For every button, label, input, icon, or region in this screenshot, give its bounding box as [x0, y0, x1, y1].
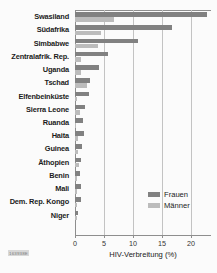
- legend-item-maenner: Männer: [148, 201, 190, 210]
- bar-maenner: [75, 163, 79, 168]
- gridline-20: [191, 10, 192, 235]
- category-label-mali: Mali: [55, 182, 69, 195]
- category-label-simbabwe: Simbabwe: [34, 36, 69, 49]
- hiv-prevalence-bar-chart: SwasilandSüdafrikaSimbabweZentralafrik. …: [0, 0, 217, 273]
- bar-maenner: [75, 176, 77, 181]
- x-tick-mark-5: [104, 235, 105, 238]
- legend-item-frauen: Frauen: [148, 190, 190, 199]
- bar-row: [75, 89, 191, 102]
- x-tick-label-20: 20: [187, 239, 195, 248]
- bar-row: [75, 156, 191, 169]
- category-label-niger: Niger: [51, 209, 69, 222]
- bar-frauen: [75, 144, 82, 149]
- bar-maenner: [75, 57, 81, 62]
- bar-frauen: [75, 158, 81, 163]
- bar-row: [75, 103, 191, 116]
- bar-frauen: [75, 12, 207, 17]
- bar-maenner: [75, 31, 101, 36]
- bar-row: [75, 169, 191, 182]
- bar-maenner: [75, 97, 77, 102]
- category-label-thopien: Äthopien: [38, 156, 69, 169]
- bar-frauen: [75, 131, 84, 136]
- bar-maenner: [75, 189, 77, 194]
- x-tick-label-0: 0: [73, 239, 77, 248]
- bar-maenner: [75, 136, 78, 141]
- bar-frauen: [75, 197, 81, 202]
- bar-frauen: [75, 184, 81, 189]
- category-label-benin: Benin: [49, 169, 69, 182]
- x-tick-mark-10: [133, 235, 134, 238]
- bar-frauen: [75, 118, 83, 123]
- bar-frauen: [75, 211, 78, 216]
- category-label-swasiland: Swasiland: [34, 10, 69, 23]
- bar-maenner: [75, 17, 114, 22]
- category-label-elfenbeink-ste: Elfenbeinküste: [19, 89, 69, 102]
- x-tick-mark-20: [191, 235, 192, 238]
- category-label-zentralafrik-rep: Zentralafrik. Rep.: [11, 50, 69, 63]
- x-tick-mark-15: [162, 235, 163, 238]
- chart-legend: Frauen Männer: [148, 190, 190, 212]
- bar-maenner: [75, 150, 78, 155]
- bar-maenner: [75, 216, 77, 221]
- bar-row: [75, 76, 191, 89]
- bar-row: [75, 50, 191, 63]
- x-tick-label-10: 10: [129, 239, 137, 248]
- category-label-guinea: Guinea: [45, 142, 69, 155]
- category-label-tschad: Tschad: [45, 76, 69, 89]
- bar-row: [75, 129, 191, 142]
- bar-frauen: [75, 78, 90, 83]
- bar-frauen: [75, 65, 99, 70]
- bar-row: [75, 36, 191, 49]
- bar-frauen: [75, 52, 108, 57]
- bar-maenner: [75, 110, 80, 115]
- x-tick-label-15: 15: [158, 239, 166, 248]
- bar-frauen: [75, 39, 138, 44]
- category-axis-labels: SwasilandSüdafrikaSimbabweZentralafrik. …: [0, 10, 72, 235]
- bar-frauen: [75, 25, 172, 30]
- bar-row: [75, 116, 191, 129]
- category-label-haita: Haita: [52, 129, 69, 142]
- bar-row: [75, 10, 191, 23]
- x-axis-title: HIV-Verbreitung (%): [75, 250, 211, 259]
- legend-label-frauen: Frauen: [164, 190, 188, 199]
- figure-id-code: 163938E: [8, 250, 29, 256]
- legend-swatch-icon-maenner: [148, 203, 160, 208]
- bar-maenner: [75, 123, 76, 128]
- category-label-sierra-leone: Sierra Leone: [26, 103, 69, 116]
- legend-label-maenner: Männer: [164, 201, 190, 210]
- x-tick-label-5: 5: [102, 239, 106, 248]
- bar-maenner: [75, 70, 81, 75]
- bar-frauen: [75, 92, 89, 97]
- category-label-uganda: Uganda: [43, 63, 69, 76]
- bar-row: [75, 63, 191, 76]
- bar-row: [75, 23, 191, 36]
- bar-maenner: [75, 44, 98, 49]
- bar-frauen: [75, 105, 85, 110]
- bar-row: [75, 142, 191, 155]
- category-label-ruanda: Ruanda: [43, 116, 69, 129]
- bar-frauen: [75, 171, 80, 176]
- x-tick-mark-0: [75, 235, 76, 238]
- bar-maenner: [75, 203, 77, 208]
- legend-swatch-icon-frauen: [148, 192, 160, 197]
- category-label-dem-rep-kongo: Dem. Rep. Kongo: [10, 195, 69, 208]
- category-label-s-dafrika: Südafrika: [37, 23, 69, 36]
- bar-maenner: [75, 83, 87, 88]
